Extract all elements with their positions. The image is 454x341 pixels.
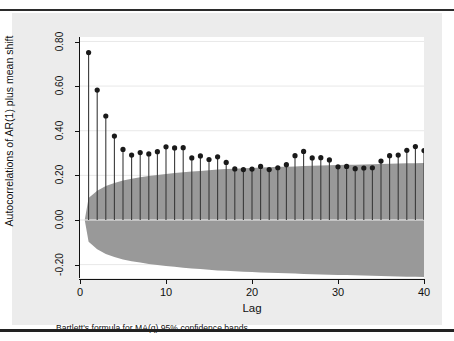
x-tick-mark (424, 280, 425, 284)
x-tick-mark (166, 280, 167, 284)
page-rule-top (0, 9, 454, 11)
x-tick-mark (80, 280, 81, 284)
x-axis-title: Lag (80, 302, 424, 314)
y-tick-label: 0.40 (54, 115, 65, 145)
y-tick-label: 0.00 (54, 205, 65, 235)
data-markers (86, 50, 424, 172)
y-axis-line (79, 37, 80, 278)
graph-region: Autocorrelations of AR(1) plus mean shif… (12, 13, 442, 325)
plot-region (80, 37, 424, 278)
x-tick-label: 10 (151, 286, 181, 298)
y-axis-title: Autocorrelations of AR(1) plus mean shif… (3, 36, 15, 227)
x-tick-mark (338, 280, 339, 284)
y-tick-label: 0.80 (54, 26, 65, 56)
y-tick-label: 0.20 (54, 160, 65, 190)
x-tick-mark (252, 280, 253, 284)
y-tick-label: -0.20 (54, 249, 65, 279)
x-tick-label: 20 (237, 286, 267, 298)
x-tick-label: 30 (323, 286, 353, 298)
page-rule-bottom (0, 329, 454, 332)
x-tick-label: 40 (409, 286, 439, 298)
y-tick-label: 0.60 (54, 71, 65, 101)
x-tick-label: 0 (65, 286, 95, 298)
acf-plot (80, 37, 424, 278)
